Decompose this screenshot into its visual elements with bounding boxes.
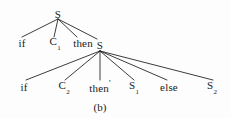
tree-node-label: then xyxy=(73,37,93,49)
tree-node-label: S xyxy=(97,39,103,51)
figure-caption: (b) xyxy=(94,102,107,113)
edge-s-c2 xyxy=(65,51,100,80)
tree-node-c2: C2 xyxy=(58,80,69,94)
tree-node-s2: S2 xyxy=(207,80,217,94)
tree-node-subscript: 2 xyxy=(66,88,70,96)
edge-root-then xyxy=(58,19,77,37)
tree-node-if-2: if xyxy=(20,82,27,93)
tree-node-label: S xyxy=(55,8,61,20)
parse-tree-figure: S if C1 then S if C2 then' S1 else S2 (b… xyxy=(0,0,231,118)
tree-edges xyxy=(0,0,231,118)
tree-node-s1: S1 xyxy=(129,80,139,94)
tree-node-c1: C1 xyxy=(49,36,60,50)
tree-node-prime: ' xyxy=(109,78,111,88)
tree-node-label: if xyxy=(20,81,27,93)
tree-node-then-1: then xyxy=(73,38,93,49)
tree-node-label: if xyxy=(18,37,25,49)
tree-node-subscript: 1 xyxy=(57,44,61,52)
tree-node-root-s: S xyxy=(55,9,61,20)
tree-node-label: S xyxy=(207,79,213,91)
tree-node-then-2: then' xyxy=(89,80,111,94)
tree-node-label: else xyxy=(160,81,178,93)
tree-node-else: else xyxy=(160,82,178,93)
tree-node-label: C xyxy=(58,79,66,91)
edge-s-if xyxy=(26,51,100,80)
tree-node-if-1: if xyxy=(18,38,25,49)
tree-node-subscript: 2 xyxy=(214,88,218,96)
tree-node-label: C xyxy=(49,35,57,47)
tree-node-inner-s: S xyxy=(97,40,103,51)
tree-node-subscript: 1 xyxy=(136,88,140,96)
tree-node-label: then xyxy=(89,82,109,94)
tree-node-label: S xyxy=(129,79,135,91)
